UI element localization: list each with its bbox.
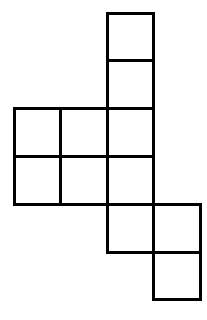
- cell-c3-r3: [107, 109, 154, 157]
- polyomino-net-figure: [0, 0, 207, 320]
- cell-c4-r5: [154, 204, 201, 252]
- cell-c1-r3: [14, 109, 61, 157]
- figure-canvas: [0, 0, 207, 320]
- cell-c2-r4: [61, 156, 108, 204]
- cell-c3-r5: [107, 204, 154, 252]
- cell-c3-r2: [107, 61, 154, 109]
- cell-c4-r6: [154, 252, 201, 300]
- cell-c2-r3: [61, 109, 108, 157]
- cell-c3-r4: [107, 156, 154, 204]
- cell-c1-r4: [14, 156, 61, 204]
- cell-c3-r1: [107, 13, 154, 61]
- net-cell-group: [14, 13, 200, 300]
